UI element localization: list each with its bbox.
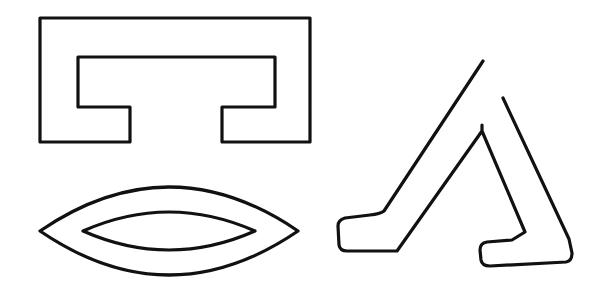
line-drawing bbox=[0, 0, 609, 295]
figure-canvas bbox=[0, 0, 609, 295]
lens-inner-shape bbox=[83, 212, 255, 250]
lambda-shape bbox=[338, 61, 572, 266]
bracket-shape bbox=[40, 18, 310, 142]
lens-outer-shape bbox=[40, 187, 298, 275]
